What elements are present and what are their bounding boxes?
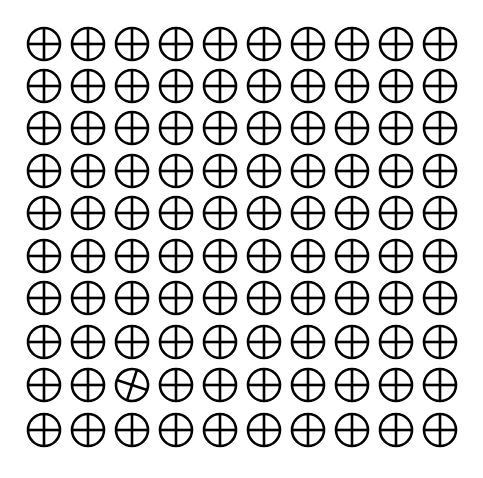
circle-cross-icon[interactable] <box>292 70 324 102</box>
circle-cross-icon[interactable] <box>28 369 60 401</box>
circle-cross-icon[interactable] <box>424 414 456 446</box>
circle-cross-icon[interactable] <box>160 326 192 358</box>
circle-cross-icon[interactable] <box>380 155 412 187</box>
circle-cross-icon[interactable] <box>424 326 456 358</box>
circle-cross-icon[interactable] <box>28 326 60 358</box>
circle-cross-icon[interactable] <box>336 70 368 102</box>
circle-cross-icon[interactable] <box>248 70 280 102</box>
circle-cross-icon[interactable] <box>72 414 104 446</box>
circle-cross-icon[interactable] <box>424 155 456 187</box>
circle-cross-icon[interactable] <box>380 326 412 358</box>
circle-cross-icon[interactable] <box>380 70 412 102</box>
circle-cross-icon[interactable] <box>160 28 192 60</box>
circle-cross-icon[interactable] <box>72 326 104 358</box>
circle-cross-icon[interactable] <box>424 28 456 60</box>
circle-cross-icon[interactable] <box>204 155 236 187</box>
circle-cross-icon[interactable] <box>116 326 148 358</box>
circle-cross-icon[interactable] <box>116 112 148 144</box>
circle-cross-icon[interactable] <box>248 28 280 60</box>
circle-cross-icon[interactable] <box>204 112 236 144</box>
circle-cross-icon[interactable] <box>72 28 104 60</box>
circle-cross-icon[interactable] <box>292 112 324 144</box>
circle-cross-icon[interactable] <box>292 155 324 187</box>
circle-cross-icon[interactable] <box>28 240 60 272</box>
circle-cross-icon[interactable] <box>380 414 412 446</box>
circle-cross-icon[interactable] <box>28 414 60 446</box>
circle-cross-icon[interactable] <box>248 414 280 446</box>
circle-cross-icon[interactable] <box>160 414 192 446</box>
circle-cross-icon[interactable] <box>72 282 104 314</box>
circle-cross-icon[interactable] <box>248 369 280 401</box>
circle-cross-icon[interactable] <box>292 326 324 358</box>
circle-cross-icon[interactable] <box>336 282 368 314</box>
circle-cross-icon[interactable] <box>292 414 324 446</box>
circle-cross-icon[interactable] <box>424 240 456 272</box>
circle-cross-icon[interactable] <box>380 28 412 60</box>
circle-cross-icon[interactable] <box>204 414 236 446</box>
circle-cross-icon[interactable] <box>336 112 368 144</box>
circle-cross-icon[interactable] <box>424 112 456 144</box>
circle-cross-icon[interactable] <box>424 369 456 401</box>
circle-cross-icon[interactable] <box>116 282 148 314</box>
circle-cross-icon[interactable] <box>160 155 192 187</box>
circle-cross-icon[interactable] <box>72 369 104 401</box>
circle-cross-icon[interactable] <box>28 282 60 314</box>
circle-cross-icon[interactable] <box>28 155 60 187</box>
circle-cross-icon[interactable] <box>160 112 192 144</box>
circle-cross-icon[interactable] <box>292 240 324 272</box>
circle-cross-icon[interactable] <box>160 240 192 272</box>
circle-cross-icon[interactable] <box>336 197 368 229</box>
circle-cross-icon[interactable] <box>424 70 456 102</box>
circle-cross-icon[interactable] <box>116 197 148 229</box>
circle-cross-icon[interactable] <box>204 70 236 102</box>
circle-cross-icon[interactable] <box>336 155 368 187</box>
circle-cross-icon[interactable] <box>72 240 104 272</box>
circle-cross-icon[interactable] <box>248 155 280 187</box>
circle-cross-icon[interactable] <box>380 112 412 144</box>
circle-cross-icon[interactable] <box>116 240 148 272</box>
circle-cross-icon[interactable] <box>248 240 280 272</box>
circle-cross-icon[interactable] <box>248 112 280 144</box>
circle-cross-icon[interactable] <box>336 414 368 446</box>
circle-cross-icon[interactable] <box>28 28 60 60</box>
circle-cross-icon[interactable] <box>292 282 324 314</box>
circle-cross-icon[interactable] <box>380 197 412 229</box>
circle-cross-icon[interactable] <box>72 70 104 102</box>
circle-cross-icon[interactable] <box>204 240 236 272</box>
circle-cross-icon[interactable] <box>204 282 236 314</box>
circle-cross-icon[interactable] <box>380 240 412 272</box>
circle-cross-icon[interactable] <box>160 197 192 229</box>
circle-cross-icon[interactable] <box>336 326 368 358</box>
circle-cross-icon[interactable] <box>204 28 236 60</box>
odd-circle-cross-icon[interactable] <box>112 365 152 405</box>
circle-cross-icon[interactable] <box>160 282 192 314</box>
circle-cross-icon[interactable] <box>72 197 104 229</box>
circle-cross-icon[interactable] <box>292 197 324 229</box>
circle-cross-icon[interactable] <box>336 240 368 272</box>
circle-cross-icon[interactable] <box>204 197 236 229</box>
circle-cross-icon[interactable] <box>292 369 324 401</box>
circle-cross-icon[interactable] <box>204 369 236 401</box>
circle-cross-icon[interactable] <box>116 70 148 102</box>
circle-cross-icon[interactable] <box>116 28 148 60</box>
circle-cross-icon[interactable] <box>248 282 280 314</box>
circle-cross-icon[interactable] <box>116 414 148 446</box>
circle-cross-icon[interactable] <box>72 155 104 187</box>
circle-cross-icon[interactable] <box>28 112 60 144</box>
circle-cross-icon[interactable] <box>160 369 192 401</box>
circle-cross-icon[interactable] <box>380 282 412 314</box>
circle-cross-icon[interactable] <box>424 282 456 314</box>
circle-cross-icon[interactable] <box>424 197 456 229</box>
circle-cross-icon[interactable] <box>204 326 236 358</box>
circle-cross-icon[interactable] <box>336 28 368 60</box>
circle-cross-icon[interactable] <box>28 70 60 102</box>
circle-cross-icon[interactable] <box>160 70 192 102</box>
circle-cross-icon[interactable] <box>72 112 104 144</box>
circle-cross-icon[interactable] <box>248 326 280 358</box>
circle-cross-icon[interactable] <box>28 197 60 229</box>
circle-cross-icon[interactable] <box>116 155 148 187</box>
circle-cross-icon[interactable] <box>292 28 324 60</box>
circle-cross-icon[interactable] <box>248 197 280 229</box>
circle-cross-icon[interactable] <box>380 369 412 401</box>
circle-cross-icon[interactable] <box>336 369 368 401</box>
